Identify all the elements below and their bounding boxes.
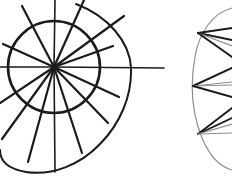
left-spiral-wheel-group — [0, 0, 164, 173]
right-partial-circle-group — [192, 8, 232, 170]
sketch-figure — [0, 0, 232, 189]
fan-bottom-ray-4 — [198, 133, 232, 134]
fan-bottom — [198, 108, 232, 134]
spoke-s — [54, 67, 55, 172]
fan-middle-ray-4 — [193, 86, 232, 97]
fan-middle — [193, 68, 232, 97]
spoke-n — [54, 0, 55, 67]
spokes-group — [0, 0, 164, 172]
outer-spiral-arc — [0, 4, 131, 173]
fan-top-ray-1 — [198, 28, 232, 33]
fan-clusters-group — [193, 28, 232, 134]
spoke-e — [54, 67, 164, 68]
fan-middle-ray-1 — [193, 68, 232, 86]
drawing-canvas — [0, 0, 232, 189]
fan-top — [198, 28, 232, 57]
spoke-ese — [54, 67, 119, 97]
spoke-nw — [22, 6, 54, 67]
